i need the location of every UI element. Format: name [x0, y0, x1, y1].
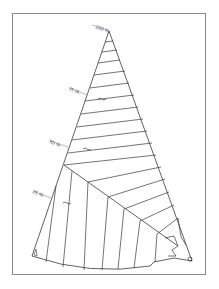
drawing-frame: [13, 14, 206, 275]
label-25-percent: 25 %: [32, 188, 45, 198]
diagonal-divider: [64, 165, 178, 246]
leader-lines: [33, 25, 109, 198]
sector-outline: [32, 31, 192, 269]
label-75-percent: 75 %: [68, 85, 81, 95]
sector-diagram: 100 % 75 % 50 % 25 %: [0, 0, 219, 289]
label-50-percent: 50 %: [49, 138, 62, 148]
label-100-percent: 100 %: [95, 23, 111, 34]
right-notch: [165, 236, 178, 256]
